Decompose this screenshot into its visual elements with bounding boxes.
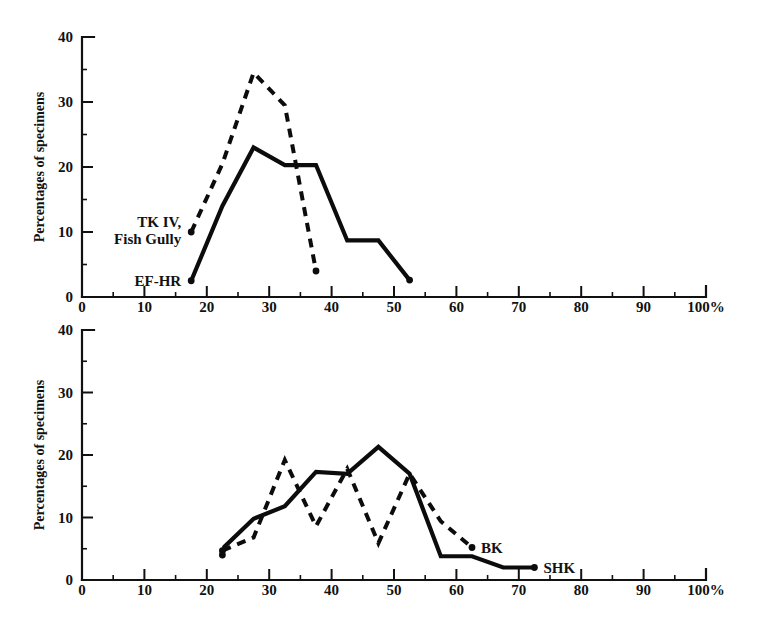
series-label: EF-HR xyxy=(135,273,182,289)
y-tick-label: 10 xyxy=(58,510,73,526)
y-tick-label: 30 xyxy=(58,385,73,401)
series-endpoint-marker xyxy=(469,544,476,551)
series-label-line1: TK IV, xyxy=(137,214,181,230)
series-label-line2: Fish Gully xyxy=(114,231,182,247)
x-tick-label: 90 xyxy=(636,299,651,315)
y-ticks-group-top: 010203040 xyxy=(58,29,93,305)
series-endpoint-marker xyxy=(219,552,226,559)
x-tick-label: 70 xyxy=(511,582,526,598)
series-endpoint-marker xyxy=(313,268,320,275)
x-tick-label: 20 xyxy=(199,299,214,315)
series-endpoint-marker xyxy=(188,277,195,284)
x-tick-label: 80 xyxy=(574,582,589,598)
x-tick-label: 20 xyxy=(199,582,214,598)
chart-svg-bottom: 0102030405060708090100%010203040Percenta… xyxy=(0,320,759,626)
x-tick-label: 100% xyxy=(687,299,725,315)
series-label: SHK xyxy=(543,560,575,576)
x-tick-label: 80 xyxy=(574,299,589,315)
x-tick-label: 10 xyxy=(137,299,152,315)
x-tick-label: 90 xyxy=(636,582,651,598)
x-tick-label: 60 xyxy=(449,582,464,598)
series-endpoint-marker xyxy=(188,229,195,236)
y-tick-label: 0 xyxy=(66,572,74,588)
x-tick-label: 50 xyxy=(387,299,402,315)
chart-panel-bottom: 0102030405060708090100%010203040Percenta… xyxy=(0,320,759,626)
y-axis-title: Percentages of specimens xyxy=(32,91,47,242)
series-endpoint-marker xyxy=(406,277,413,284)
y-tick-label: 0 xyxy=(66,289,74,305)
x-tick-label: 10 xyxy=(137,582,152,598)
axes-group-bottom xyxy=(82,330,706,580)
x-tick-label: 0 xyxy=(78,582,86,598)
x-tick-label: 30 xyxy=(262,299,277,315)
y-tick-label: 40 xyxy=(58,29,73,45)
chart-panel-top: 0102030405060708090100%010203040Percenta… xyxy=(0,0,759,320)
x-tick-label: 100% xyxy=(687,582,725,598)
figure-container: 0102030405060708090100%010203040Percenta… xyxy=(0,0,759,626)
series-endpoint-marker xyxy=(531,564,538,571)
x-tick-label: 40 xyxy=(324,299,339,315)
y-ticks-group-bottom: 010203040 xyxy=(58,322,93,588)
x-tick-label: 30 xyxy=(262,582,277,598)
x-tick-label: 40 xyxy=(324,582,339,598)
series-line-ef-hr xyxy=(191,148,409,281)
y-tick-label: 30 xyxy=(58,94,73,110)
y-tick-label: 40 xyxy=(58,322,73,338)
series-label: BK xyxy=(481,540,503,556)
chart-svg-top: 0102030405060708090100%010203040Percenta… xyxy=(0,0,759,320)
x-tick-label: 70 xyxy=(511,299,526,315)
y-tick-label: 20 xyxy=(58,159,73,175)
series-label-group-0: TK IV,Fish Gully xyxy=(114,214,182,247)
y-tick-label: 20 xyxy=(58,447,73,463)
y-tick-label: 10 xyxy=(58,224,73,240)
y-axis-title: Percentages of specimens xyxy=(32,379,47,530)
x-ticks-group-bottom: 0102030405060708090100% xyxy=(78,569,725,598)
x-tick-label: 0 xyxy=(78,299,86,315)
x-ticks-group-top: 0102030405060708090100% xyxy=(78,286,725,315)
x-tick-label: 50 xyxy=(387,582,402,598)
x-tick-label: 60 xyxy=(449,299,464,315)
